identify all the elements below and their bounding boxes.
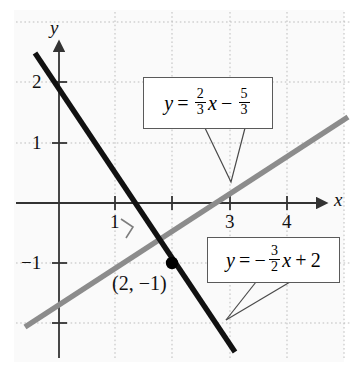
eq1-sign: − [221,92,232,115]
eq1-intercept-numerator: 5 [239,87,250,102]
callout-black-line-equation: y = − 3 2 x + 2 [207,237,340,283]
plot-area-background [14,10,344,362]
eq2-slope-denominator: 2 [269,259,280,275]
eq2-intercept: 2 [311,249,321,272]
eq2-sign: + [295,249,306,272]
eq1-intercept-denominator: 3 [239,102,250,118]
graph-figure: y x 1 3 4 2 1 −1 (2, −1) y = 2 3 x − 5 3… [0,0,356,371]
intersection-point-marker [166,257,178,269]
eq1-slope-denominator: 3 [195,102,206,118]
eq1-slope-fraction: 2 3 [195,87,206,117]
x-axis-label: x [334,190,342,209]
eq2-slope-numerator: 3 [269,244,280,259]
x-tick-label-1: 1 [110,212,120,231]
y-tick-label-neg-1: −1 [21,253,41,272]
equation-gray-line: y = 2 3 x − 5 3 [164,88,252,118]
eq1-lhs: y [164,92,173,115]
coordinate-plane [0,0,356,371]
callout-gray-line-equation: y = 2 3 x − 5 3 [143,77,273,129]
x-tick-label-4: 4 [282,212,292,231]
eq1-slope-numerator: 2 [195,87,206,102]
y-axis-label: y [50,18,58,37]
eq1-equals: = [177,92,188,115]
eq1-intercept-fraction: 5 3 [239,87,250,117]
equation-black-line: y = − 3 2 x + 2 [226,245,321,275]
eq1-variable: x [208,92,217,115]
eq2-lhs: y [226,249,235,272]
intersection-point-label: (2, −1) [112,273,167,293]
eq2-variable: x [282,249,291,272]
y-tick-label-2: 2 [32,72,42,91]
eq2-leading-minus: − [255,249,266,272]
eq2-slope-fraction: 3 2 [269,244,280,274]
x-tick-label-3: 3 [225,212,235,231]
y-tick-label-1: 1 [32,133,42,152]
eq2-equals: = [239,249,250,272]
